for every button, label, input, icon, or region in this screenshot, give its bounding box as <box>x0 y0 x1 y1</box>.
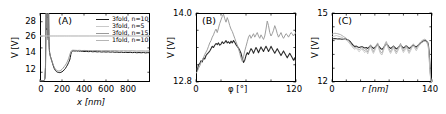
panel-a-ytick-12: 12 <box>16 65 36 74</box>
legend-label: 1fold, n=10 <box>112 37 148 43</box>
panel-b-ytick-top: 14.0 <box>160 9 192 18</box>
panel-c-yaxis-label: V [V] <box>310 37 320 58</box>
legend-item: 1fold, n=10 <box>96 37 148 43</box>
figure-root: 28 26 14 12 0 200 400 600 800 x [nm] V [… <box>0 0 446 114</box>
panel-b-yaxis-label: V [V] <box>166 37 176 58</box>
panel-b-xaxis-label: φ [°] <box>228 85 247 94</box>
panel-c-ytick-bottom: 12 <box>304 77 328 86</box>
panel-b-xtick-0: 0 <box>192 85 200 94</box>
panel-c-xaxis-label: r [nm] <box>362 85 389 94</box>
panel-a-ytick-28: 28 <box>16 17 36 26</box>
panel-a-xtick-400: 400 <box>76 85 92 94</box>
legend-swatch-1fold-n10 <box>96 40 109 41</box>
panel-a-xtick-200: 200 <box>54 85 70 94</box>
panel-c-xtick-140: 140 <box>420 85 440 94</box>
legend-swatch-3fold-n5 <box>96 26 109 27</box>
panel-a-label: (A) <box>58 16 72 26</box>
panel-a-yaxis-label: V [V] <box>10 37 20 58</box>
panel-a-xtick-0: 0 <box>37 85 45 94</box>
panel-b-xtick-120: 120 <box>284 85 304 94</box>
legend-swatch-3fold-n10 <box>96 19 109 20</box>
panel-b-ytick-bottom: 12.8 <box>160 77 192 86</box>
panel-c-label: (C) <box>338 16 352 26</box>
panel-a-xtick-600: 600 <box>98 85 114 94</box>
panel-c-ytick-top: 15 <box>304 9 328 18</box>
panel-b-label: (B) <box>202 16 216 26</box>
panel-c-xtick-0: 0 <box>328 85 336 94</box>
panel-a-xaxis-label: x [nm] <box>77 98 105 107</box>
panel-a-legend: 3fold, n=10 3fold, n=5 3fold, n=15 1fold… <box>96 16 148 44</box>
panel-a-xtick-800: 800 <box>120 85 136 94</box>
legend-swatch-3fold-n15 <box>96 33 109 34</box>
